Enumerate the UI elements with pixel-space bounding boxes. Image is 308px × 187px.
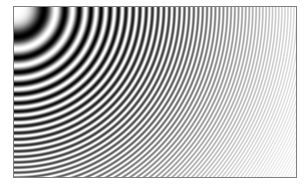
plot-frame xyxy=(13,6,297,178)
zone-plate-canvas xyxy=(14,7,296,177)
figure-root xyxy=(0,0,308,187)
